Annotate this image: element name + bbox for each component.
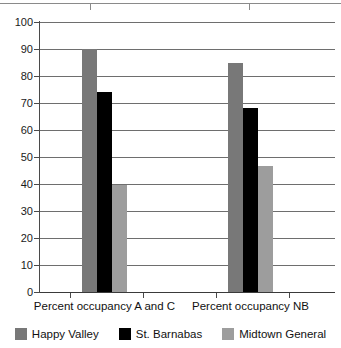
y-axis-tick-label-100: 100: [1, 17, 33, 28]
y-axis-tick-50: [34, 157, 39, 158]
y-axis-tick-20: [34, 238, 39, 239]
bar-1-midtown-general: [112, 185, 127, 292]
bar-1-happy-valley: [82, 49, 97, 292]
y-axis-tick-70: [34, 103, 39, 104]
y-axis-tick-label-80: 80: [1, 71, 33, 82]
x-axis-tick-4: [289, 293, 290, 298]
x-axis-tick-2: [143, 293, 144, 298]
legend-swatch-icon: [15, 328, 27, 340]
y-axis-tick-label-60: 60: [1, 125, 33, 136]
x-axis-baseline: [40, 292, 335, 293]
bar-2-happy-valley: [228, 63, 243, 293]
gridline-100: [40, 22, 335, 23]
legend-label: Midtown General: [239, 328, 326, 340]
y-axis-tick-80: [34, 76, 39, 77]
y-axis-tick-10: [34, 265, 39, 266]
bar-2-st-barnabas: [243, 108, 258, 292]
legend-item-midtown-general[interactable]: Midtown General: [222, 328, 326, 340]
y-axis-tick-label-0: 0: [1, 287, 33, 298]
y-axis-tick-0: [34, 292, 39, 293]
y-axis-tick-label-90: 90: [1, 44, 33, 55]
legend-label: Happy Valley: [32, 328, 99, 340]
bar-1-st-barnabas: [97, 92, 112, 292]
legend-item-happy-valley[interactable]: Happy Valley: [15, 328, 99, 340]
y-axis-tick-label-50: 50: [1, 152, 33, 163]
y-axis-tick-60: [34, 130, 39, 131]
legend-swatch-icon: [222, 328, 234, 340]
y-axis-tick-label-10: 10: [1, 260, 33, 271]
x-axis-label-group-1: Percent occupancy A and C: [34, 299, 175, 313]
legend-item-st-barnabas[interactable]: St. Barnabas: [119, 328, 202, 340]
y-axis-tick-30: [34, 211, 39, 212]
y-axis-tick-label-70: 70: [1, 98, 33, 109]
x-axis-tick-1: [70, 293, 71, 298]
y-axis-labels: 0102030405060708090100: [0, 0, 33, 348]
bar-2-midtown-general: [258, 166, 273, 292]
chart-legend: Happy ValleySt. BarnabasMidtown General: [0, 324, 341, 344]
y-axis-tick-100: [34, 22, 39, 23]
plot-area: [40, 22, 335, 292]
x-axis-tick-3: [216, 293, 217, 298]
y-axis-tick-label-40: 40: [1, 179, 33, 190]
y-axis-tick-90: [34, 49, 39, 50]
y-axis-tick-label-20: 20: [1, 233, 33, 244]
y-axis-tick-label-30: 30: [1, 206, 33, 217]
x-axis-label-group-2: Percent occupancy NB: [192, 299, 309, 313]
legend-label: St. Barnabas: [136, 328, 202, 340]
bar-chart: 0102030405060708090100 Percent occupancy…: [0, 0, 341, 348]
legend-swatch-icon: [119, 328, 131, 340]
y-axis-tick-40: [34, 184, 39, 185]
